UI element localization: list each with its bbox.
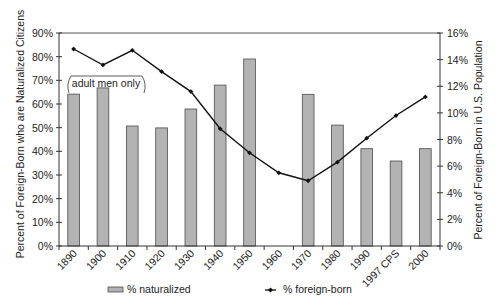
left-tick-label: 80% [32, 51, 53, 63]
x-ticks: 1890190019101920193019401950196019701980… [54, 246, 440, 289]
right-tick-label: 6% [447, 160, 462, 172]
left-tick-label: 10% [32, 216, 53, 228]
bar-2000 [420, 149, 432, 246]
left-tick-label: 20% [32, 193, 53, 205]
legend-item-naturalized[interactable]: % naturalized [108, 283, 191, 295]
x-tick-label: 2000 [406, 247, 431, 272]
x-tick-label: 1910 [113, 247, 138, 272]
bar-1920 [156, 128, 168, 246]
chart: 0%10%20%30%40%50%60%70%80%90% 0%2%4%6%8%… [0, 0, 499, 308]
x-tick-label: 1900 [83, 247, 108, 272]
annotation-text: adult men only [72, 77, 141, 89]
left-tick-label: 50% [32, 122, 53, 134]
legend-label-foreign-born: % foreign-born [283, 283, 352, 295]
left-axis-title: Percent of Foreign-Born who are Naturali… [14, 10, 26, 259]
bar-1910 [126, 126, 138, 246]
bar-1900 [97, 88, 109, 246]
legend-label-naturalized: % naturalized [127, 283, 191, 295]
x-tick-label: 1990 [347, 247, 372, 272]
bar-1980 [332, 125, 344, 246]
x-tick-label: 1920 [142, 247, 167, 272]
legend: % naturalized % foreign-born [108, 283, 352, 295]
bar-1940 [214, 85, 226, 246]
left-tick-label: 30% [32, 169, 53, 181]
right-axis-title: Percent of Foreign-Born in U.S. Populati… [472, 40, 484, 239]
left-tick-label: 0% [38, 240, 53, 252]
right-tick-label: 4% [447, 187, 462, 199]
x-tick-label: 1890 [54, 247, 79, 272]
bar-1890 [68, 94, 80, 246]
left-tick-label: 90% [32, 27, 53, 39]
bar-1990 [361, 149, 373, 246]
bar-1930 [185, 109, 197, 246]
bar-1970 [302, 94, 314, 246]
right-y-ticks: 0%2%4%6%8%10%12%14%16% [437, 27, 468, 252]
right-tick-label: 16% [447, 27, 468, 39]
x-tick-label: 1950 [230, 247, 255, 272]
right-tick-label: 2% [447, 213, 462, 225]
left-tick-label: 40% [32, 145, 53, 157]
x-tick-label: 1970 [289, 247, 314, 272]
x-tick-label: 1960 [259, 247, 284, 272]
right-tick-label: 8% [447, 134, 462, 146]
right-tick-label: 0% [447, 240, 462, 252]
legend-swatch-bar-icon [108, 287, 123, 292]
left-tick-label: 70% [32, 74, 53, 86]
x-tick-label: 1940 [201, 247, 226, 272]
legend-item-foreign-born[interactable]: % foreign-born [265, 283, 352, 295]
right-tick-label: 10% [447, 107, 468, 119]
x-tick-label: 1980 [318, 247, 343, 272]
left-tick-label: 60% [32, 98, 53, 110]
right-tick-label: 14% [447, 54, 468, 66]
x-tick-label: 1930 [171, 247, 196, 272]
legend-marker-diamond-icon [268, 288, 273, 293]
right-tick-label: 12% [447, 80, 468, 92]
left-y-ticks: 0%10%20%30%40%50%60%70%80%90% [32, 27, 62, 252]
bar-1997-cps [390, 161, 402, 246]
